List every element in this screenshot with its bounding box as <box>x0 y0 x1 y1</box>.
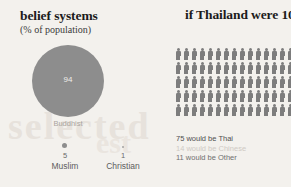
person-icon <box>207 75 215 89</box>
person-icon <box>215 75 223 89</box>
person-icon <box>279 75 287 89</box>
bubble-buddhist: 94 <box>32 45 104 117</box>
people-pictogram-row <box>175 103 291 117</box>
person-icon <box>263 75 271 89</box>
person-icon <box>223 47 231 61</box>
person-icon <box>255 103 263 117</box>
person-icon <box>175 75 183 89</box>
legend-item-other: 11 would be Other <box>176 153 246 163</box>
person-icon <box>247 61 255 75</box>
person-icon <box>287 89 291 103</box>
person-icon <box>279 47 287 61</box>
person-icon <box>207 47 215 61</box>
person-icon <box>175 47 183 61</box>
person-icon <box>231 103 239 117</box>
person-icon <box>207 61 215 75</box>
person-icon <box>239 103 247 117</box>
person-icon <box>255 89 263 103</box>
person-icon <box>287 103 291 117</box>
person-icon <box>239 75 247 89</box>
person-icon <box>191 61 199 75</box>
person-icon <box>231 61 239 75</box>
person-icon <box>191 75 199 89</box>
person-icon <box>183 103 191 117</box>
person-icon <box>255 75 263 89</box>
person-icon <box>255 47 263 61</box>
belief-systems-subtitle: (% of population) <box>20 24 91 35</box>
person-icon <box>231 47 239 61</box>
person-icon <box>215 89 223 103</box>
person-icon <box>183 61 191 75</box>
person-icon <box>231 75 239 89</box>
pictogram-legend: 75 would be Thai 14 would be Chinese 11 … <box>176 134 246 163</box>
person-icon <box>191 103 199 117</box>
bubble-buddhist-label: Buddhist <box>32 119 104 128</box>
person-icon <box>207 103 215 117</box>
person-icon <box>183 75 191 89</box>
person-icon <box>247 89 255 103</box>
person-icon <box>239 89 247 103</box>
legend-item-chinese: 14 would be Chinese <box>176 144 246 154</box>
person-icon <box>183 89 191 103</box>
person-icon <box>191 89 199 103</box>
person-icon <box>271 75 279 89</box>
person-icon <box>287 61 291 75</box>
person-icon <box>207 89 215 103</box>
person-icon <box>223 89 231 103</box>
person-icon <box>271 47 279 61</box>
person-icon <box>247 47 255 61</box>
person-icon <box>191 47 199 61</box>
person-icon <box>279 103 287 117</box>
people-pictogram-row <box>175 75 291 89</box>
person-icon <box>199 89 207 103</box>
person-icon <box>271 103 279 117</box>
person-icon <box>279 61 287 75</box>
person-icon <box>199 75 207 89</box>
person-icon <box>239 47 247 61</box>
people-pictogram-row <box>175 89 291 103</box>
infographic-page: selected est belief systems (% of popula… <box>0 0 291 187</box>
bubble-muslim-label: Muslim <box>40 161 90 171</box>
belief-systems-panel: belief systems (% of population) 94 Budd… <box>0 0 146 187</box>
bubble-christian <box>122 146 124 148</box>
person-icon <box>255 61 263 75</box>
bubble-christian-label: Christian <box>98 161 148 171</box>
person-icon <box>199 47 207 61</box>
person-icon <box>223 61 231 75</box>
person-icon <box>175 103 183 117</box>
person-icon <box>199 61 207 75</box>
person-icon <box>175 89 183 103</box>
person-icon <box>239 61 247 75</box>
person-icon <box>263 47 271 61</box>
person-icon <box>263 89 271 103</box>
person-icon <box>271 89 279 103</box>
person-icon <box>183 47 191 61</box>
person-icon <box>215 47 223 61</box>
person-icon <box>175 61 183 75</box>
person-icon <box>247 75 255 89</box>
people-pictogram-row <box>175 61 291 75</box>
person-icon <box>223 103 231 117</box>
person-icon <box>215 61 223 75</box>
person-icon <box>231 89 239 103</box>
bubble-muslim-value: 5 <box>44 151 86 160</box>
people-pictogram-row <box>175 47 291 61</box>
person-icon <box>215 103 223 117</box>
pictogram-title: if Thailand were 100 people <box>185 8 291 23</box>
person-icon <box>199 103 207 117</box>
person-icon <box>263 61 271 75</box>
bubble-muslim <box>62 143 67 148</box>
person-icon <box>223 75 231 89</box>
population-pictogram-panel: if Thailand were 100 people 75 would be … <box>146 0 291 187</box>
bubble-christian-value: 1 <box>103 151 143 160</box>
person-icon <box>247 103 255 117</box>
people-pictogram-grid <box>175 47 291 117</box>
person-icon <box>287 47 291 61</box>
person-icon <box>263 103 271 117</box>
person-icon <box>271 61 279 75</box>
legend-item-thai: 75 would be Thai <box>176 134 246 144</box>
person-icon <box>279 89 287 103</box>
belief-systems-title: belief systems <box>20 8 98 24</box>
person-icon <box>287 75 291 89</box>
bubble-buddhist-value: 94 <box>32 75 104 84</box>
